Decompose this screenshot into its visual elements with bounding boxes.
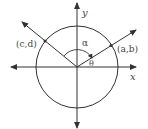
x-axis-label: x [130,71,136,82]
point-a-b-label: (a,b) [117,44,138,54]
diagram-canvas: y x (c,d) (a,b) α θ [0,0,148,129]
unit-circle-diagram: y x (c,d) (a,b) α θ [0,0,148,129]
point-a-b [110,44,113,47]
theta-label: θ [89,59,94,68]
point-c-d-label: (c,d) [16,39,37,49]
point-c-d [44,40,47,43]
alpha-label: α [82,38,88,48]
y-axis-label: y [81,7,88,18]
alpha-arc [64,50,92,58]
